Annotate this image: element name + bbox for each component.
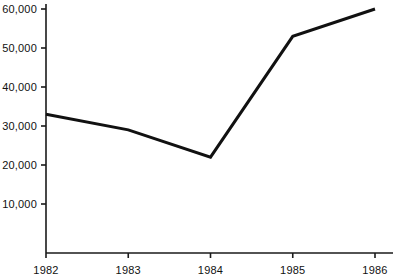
y-tick-label: 10,000	[0, 198, 37, 210]
data-series-line	[46, 9, 375, 157]
x-tick-label: 1983	[116, 264, 141, 276]
chart-plot-area	[0, 0, 395, 280]
y-tick-label: 60,000	[0, 3, 37, 15]
y-tick-label: 40,000	[0, 81, 37, 93]
x-tick-label: 1984	[198, 264, 223, 276]
y-tick-label: 30,000	[0, 120, 37, 132]
x-tick-label: 1986	[362, 264, 387, 276]
x-tick-label: 1985	[280, 264, 305, 276]
line-chart: 10,00020,00030,00040,00050,00060,000 198…	[0, 0, 395, 280]
y-tick-label: 20,000	[0, 159, 37, 171]
x-tick-label: 1982	[33, 264, 58, 276]
y-tick-label: 50,000	[0, 42, 37, 54]
